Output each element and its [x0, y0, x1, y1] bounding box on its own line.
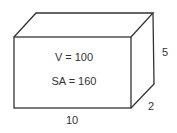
right-face — [131, 13, 154, 108]
depth-label: 2 — [148, 100, 154, 112]
height-label: 5 — [162, 46, 168, 58]
prism-diagram: V = 100 SA = 160 10 5 2 — [0, 0, 177, 133]
surface-area-label: SA = 160 — [52, 75, 97, 87]
volume-label: V = 100 — [55, 51, 93, 63]
prism-figure: V = 100 SA = 160 10 5 2 — [0, 0, 177, 133]
length-label: 10 — [66, 114, 78, 126]
top-face — [14, 13, 153, 37]
front-face — [14, 37, 131, 108]
